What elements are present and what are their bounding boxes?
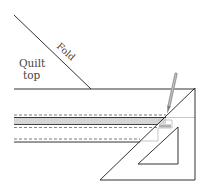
binding-band-fill <box>14 118 166 124</box>
fold-label: Fold <box>55 40 78 62</box>
marking-box-fill <box>159 125 171 128</box>
quilt-top-label-line2: top <box>23 69 41 81</box>
quilt-binding-diagram: Fold Quilt top <box>0 0 206 192</box>
right-triangle-ruler <box>100 88 195 180</box>
quilt-top-label-line1: Quilt <box>19 57 46 69</box>
